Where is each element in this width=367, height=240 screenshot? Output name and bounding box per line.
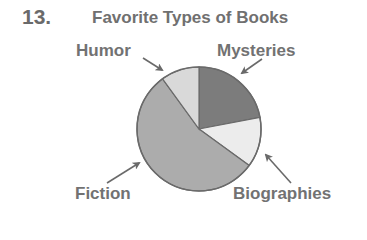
humor-arrow-icon (143, 58, 162, 70)
fiction-arrow-icon (107, 163, 139, 183)
mysteries-arrow-icon (242, 59, 262, 73)
label-fiction: Fiction (75, 184, 131, 204)
biographies-arrow-icon (266, 155, 291, 183)
label-humor: Humor (76, 41, 131, 61)
label-biographies: Biographies (233, 184, 331, 204)
label-mysteries: Mysteries (217, 41, 295, 61)
